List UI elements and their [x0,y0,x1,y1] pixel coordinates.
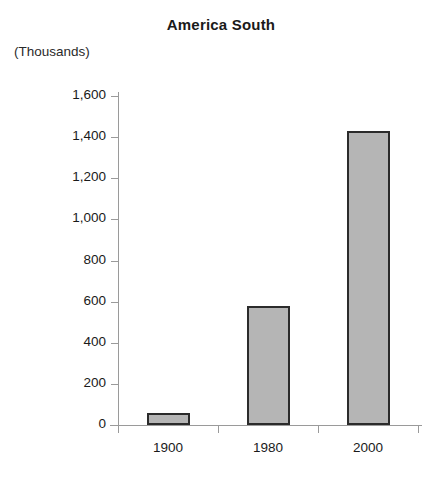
y-axis-tick-label: 800 [44,252,106,267]
x-axis-tick [418,426,419,433]
x-axis-tick [218,426,219,433]
y-axis-tick-label: 1,600 [44,87,106,102]
y-axis-tick-label: 1,200 [44,169,106,184]
x-axis-category-labels: 190019802000 [118,440,418,466]
bar [247,306,290,425]
y-axis-tick-labels: 02004006008001,0001,2001,4001,600 [42,0,106,496]
x-axis-category-label: 1980 [218,440,318,466]
bar [347,131,390,425]
x-axis-tick [318,426,319,433]
y-axis-tick-label: 0 [44,416,106,431]
y-axis-tick-label: 200 [44,375,106,390]
plot-area [118,96,418,425]
x-axis-category-label: 1900 [118,440,218,466]
y-axis-tick-label: 1,400 [44,128,106,143]
x-axis-line [110,425,422,426]
bar-chart-figure: America South (Thousands) 02004006008001… [0,0,442,496]
bar [147,413,190,425]
y-axis-tick-label: 600 [44,293,106,308]
x-axis-category-label: 2000 [318,440,418,466]
x-axis-tick [118,426,119,433]
y-axis-tick-label: 400 [44,334,106,349]
y-axis-tick-label: 1,000 [44,210,106,225]
